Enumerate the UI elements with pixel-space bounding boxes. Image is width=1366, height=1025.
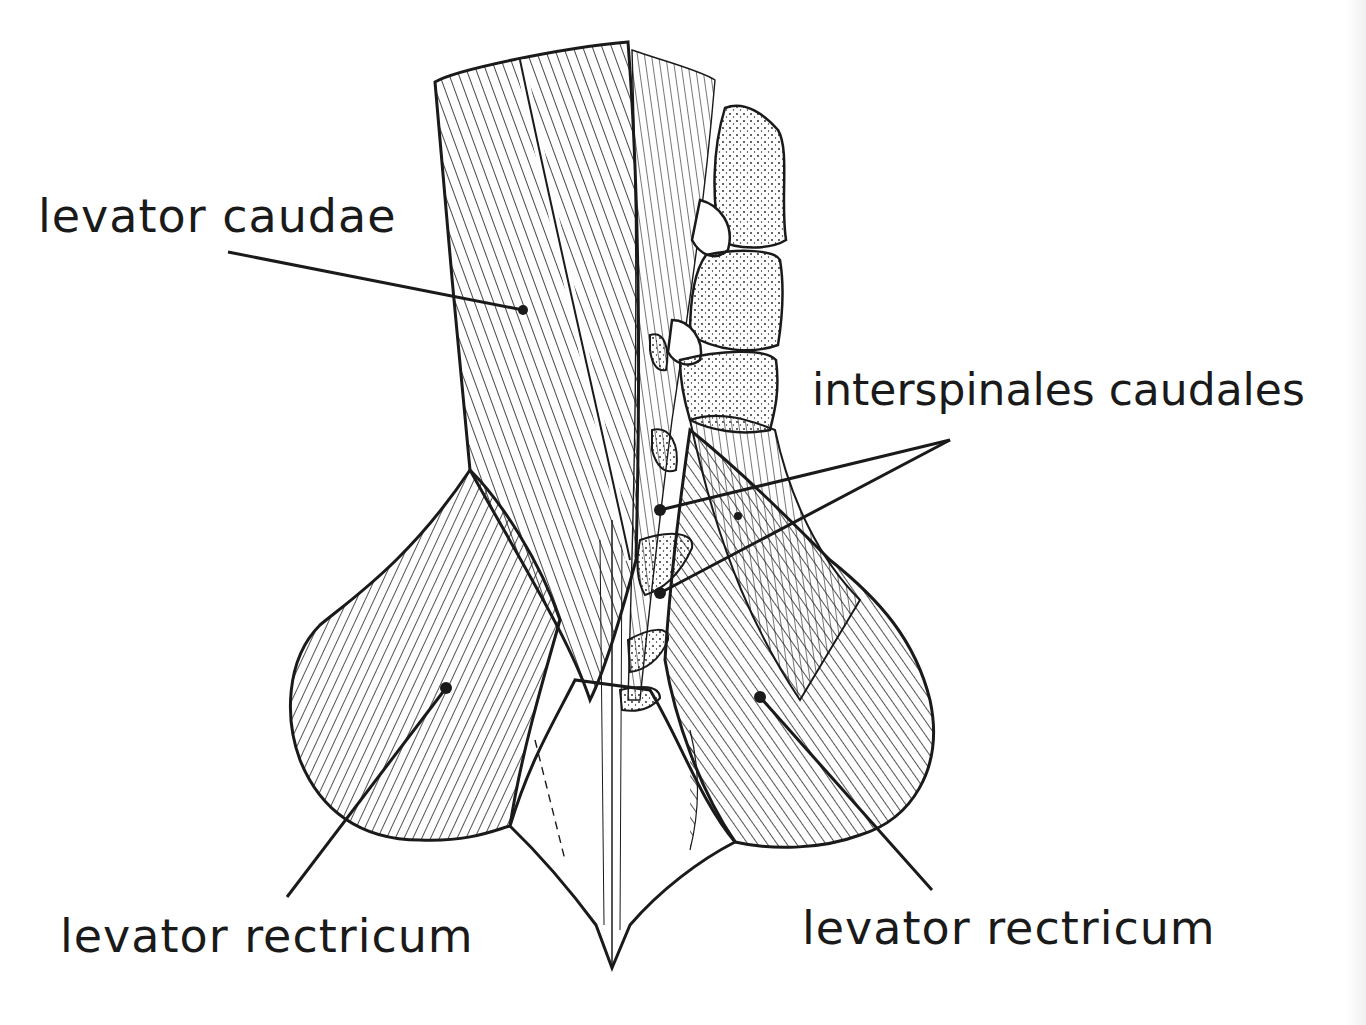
page-edge-shadow [1346, 0, 1366, 1025]
label-levator-rectricum-left: levator rectricum [60, 913, 474, 959]
anatomy-illustration [0, 0, 1366, 1025]
label-interspinales-caudales: interspinales caudales [812, 368, 1305, 412]
label-levator-caudae: levator caudae [38, 193, 397, 239]
label-levator-rectricum-right: levator rectricum [802, 905, 1216, 951]
